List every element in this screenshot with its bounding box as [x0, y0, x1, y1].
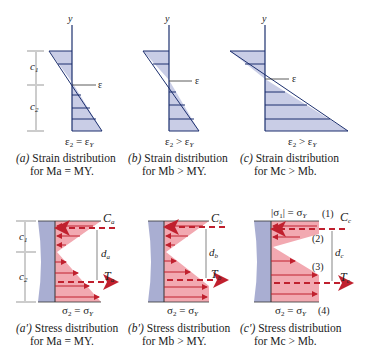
svg-text:y: y [67, 13, 73, 24]
svg-text:c1: c1 [19, 230, 27, 244]
strain-diagram-a: y ε c1 c2 ε2 = εY [27, 13, 102, 149]
svg-text:(4): (4) [318, 305, 330, 317]
svg-text:ε: ε [98, 79, 102, 90]
svg-text:ε2 = εY: ε2 = εY [65, 135, 94, 149]
svg-text:(2): (2) [312, 233, 324, 245]
svg-text:|σ1| = σY: |σ1| = σY [271, 206, 307, 220]
svg-text:Tb: Tb [211, 267, 222, 282]
svg-text:ε: ε [292, 73, 296, 84]
stress-diagram-a-prime: c1 c2 Ca da Ta σ2 = σY [16, 211, 115, 318]
svg-text:c1: c1 [30, 60, 38, 74]
caption-stress-c-prime: (c′) Stress distribution for Mc > Mb. [240, 322, 342, 348]
strain-diagram-b: y ε ε2 > εY [143, 13, 199, 149]
caption-strain-a: (a) Strain distribution for Ma = MY. [16, 152, 116, 178]
svg-text:σ2 = σY: σ2 = σY [167, 304, 199, 318]
svg-text:db: db [209, 246, 219, 260]
svg-text:Cb: Cb [211, 211, 223, 226]
svg-text:Cc: Cc [340, 210, 352, 225]
svg-text:(3): (3) [312, 261, 324, 273]
stress-diagram-c-prime: |σ1| = σY (1) Cc (2) dc (3) Tc σ2 = σY (… [254, 206, 352, 318]
svg-text:c2: c2 [30, 100, 39, 114]
svg-text:Ta: Ta [104, 269, 115, 284]
svg-text:(1): (1) [322, 208, 334, 220]
caption-strain-b: (b) Strain distribution for Mb > MY. [128, 152, 228, 178]
svg-text:σ2 = σY: σ2 = σY [62, 304, 94, 318]
svg-text:Ca: Ca [103, 211, 115, 226]
strain-diagram-c: y ε ε2 > εY [230, 13, 348, 149]
svg-text:ε2 > εY: ε2 > εY [165, 135, 194, 149]
stress-diagram-b-prime: Cb db Tb σ2 = σY [148, 211, 225, 318]
svg-text:dc: dc [335, 246, 345, 260]
svg-text:da: da [101, 247, 111, 261]
svg-text:ε: ε [195, 75, 199, 86]
svg-text:Tc: Tc [340, 270, 351, 285]
caption-stress-a-prime: (a′) Stress distribution for Ma = MY. [16, 322, 118, 348]
svg-text:y: y [261, 13, 267, 24]
svg-text:ε2 > εY: ε2 > εY [288, 135, 317, 149]
svg-text:y: y [164, 13, 170, 24]
caption-strain-c: (c) Strain distribution for Mc > Mb. [240, 152, 339, 178]
svg-text:σ2 = σY: σ2 = σY [275, 304, 307, 318]
caption-stress-b-prime: (b′) Stress distribution for Mb > MY. [128, 322, 230, 348]
svg-text:c2: c2 [19, 270, 28, 284]
